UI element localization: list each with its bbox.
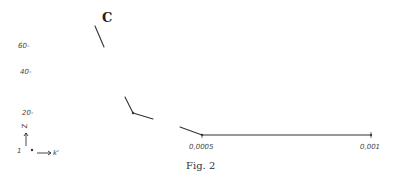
figure-caption: Fig. 2 — [186, 160, 215, 171]
y-tick-label: 40- — [20, 68, 31, 76]
x-tick-label: 0,0005 — [189, 143, 214, 151]
curve-segment-3 — [180, 127, 371, 135]
curve-segment-1 — [95, 26, 104, 47]
origin-label: 1 — [17, 147, 21, 155]
y-tick-label: 20- — [22, 109, 33, 117]
y-tick-label: 60- — [18, 42, 29, 50]
curve-segment-2 — [125, 97, 153, 119]
curve-label: C — [102, 10, 112, 25]
chart-plot — [0, 0, 402, 185]
x-axis-label: k' — [53, 149, 59, 157]
data-point — [132, 112, 134, 114]
y-axis-label: Z — [21, 124, 29, 129]
x-tick-label: 0,001 — [360, 143, 380, 151]
origin-dot — [31, 149, 33, 151]
